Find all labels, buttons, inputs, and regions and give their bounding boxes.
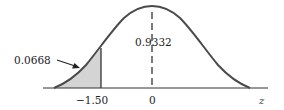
axis-label-z: z bbox=[258, 95, 265, 106]
right-area-label: 0.9332 bbox=[135, 36, 172, 48]
tick-label-neg-1-50: −1.50 bbox=[76, 94, 108, 106]
left-area-label: 0.0668 bbox=[14, 54, 51, 66]
tick-label-zero: 0 bbox=[149, 94, 156, 106]
normal-distribution-chart: 0.0668 0.9332 −1.50 0 z bbox=[0, 0, 284, 110]
arrow-line bbox=[57, 60, 75, 66]
